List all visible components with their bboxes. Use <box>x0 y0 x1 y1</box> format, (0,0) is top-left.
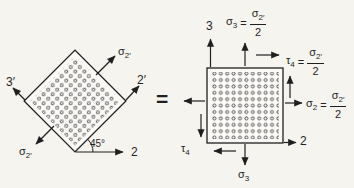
tau4-equation: τ4 = σ2′ 2 <box>286 47 324 77</box>
sigma2-equation: σ2 = σ2′ 2 <box>306 90 346 120</box>
axis-3prime-label: 3′ <box>6 76 15 88</box>
rotated-element-dot-fill <box>30 56 119 145</box>
sigma-2prime-top-arrow <box>96 56 115 75</box>
angle-45-label: 45° <box>90 139 105 149</box>
sigma-2prime-top-label: σ2′ <box>118 46 131 60</box>
aligned-element <box>184 39 302 165</box>
equals-sign: = <box>156 88 168 109</box>
sigma-2prime-bottom-label: σ2′ <box>19 146 32 160</box>
axis-3prime-arrow <box>13 88 25 100</box>
aligned-element-dot-fill <box>211 72 279 139</box>
rotated-element <box>13 50 139 152</box>
axis-2-label-left-figure: 2 <box>131 146 138 158</box>
sigma3-bottom-label: σ3 <box>238 169 249 183</box>
axis-2prime-label: 2′ <box>137 74 146 86</box>
axis-2-label-right-figure: 2 <box>300 135 307 147</box>
tau4-bottom-label: τ4 <box>181 143 190 157</box>
sigma3-equation: σ3 = σ2′ 2 <box>226 8 266 38</box>
stress-transformation-figure: σ2′ 2′ 3′ σ2′ 45° 2 = 3 σ3 = σ2′ 2 τ4 = … <box>0 0 354 188</box>
axis-3-label: 3 <box>206 20 213 32</box>
sigma-2prime-bottom-arrow <box>36 126 54 144</box>
axis-2prime-arrow <box>126 86 139 100</box>
diagram-canvas <box>0 0 354 188</box>
